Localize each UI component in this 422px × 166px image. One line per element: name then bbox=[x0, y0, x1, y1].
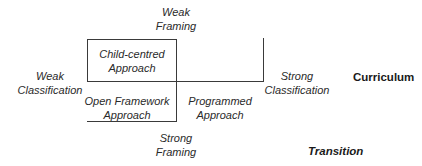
transition-heading: Transition bbox=[308, 144, 363, 158]
weak-framing-label: Weak Framing bbox=[146, 5, 206, 33]
open-framework-approach-label: Open Framework Approach bbox=[82, 94, 172, 122]
programmed-approach-label: Programmed Approach bbox=[182, 94, 258, 122]
weak-classification-label: Weak Classification bbox=[10, 69, 90, 97]
child-centred-approach-label: Child-centred Approach bbox=[92, 47, 172, 75]
classification-axis-line bbox=[87, 81, 264, 82]
strong-classification-label: Strong Classification bbox=[257, 69, 337, 97]
strong-framing-label: Strong Framing bbox=[146, 131, 206, 159]
box-top-edge bbox=[87, 39, 177, 40]
curriculum-heading: Curriculum bbox=[353, 70, 414, 84]
classification-framing-diagram: Weak Framing Strong Framing Weak Classif… bbox=[0, 0, 422, 166]
